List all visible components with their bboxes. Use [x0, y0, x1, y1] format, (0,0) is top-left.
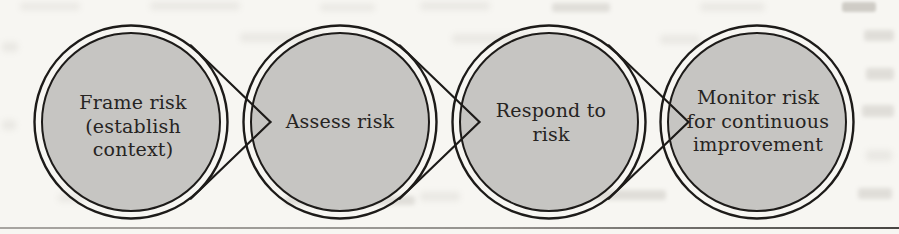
- stage-label-line: context): [43, 138, 223, 162]
- page-text-rule: [0, 227, 899, 229]
- stage-label-line: Respond to: [461, 99, 641, 123]
- stage-label-respond-risk: Respond to risk: [461, 99, 641, 146]
- stage-label-line: Frame risk: [43, 91, 223, 115]
- scanned-book-figure: Frame risk (establish context) Assess ri…: [0, 0, 899, 234]
- stage-label-monitor-risk: Monitor risk for continuous improvement: [668, 86, 848, 157]
- stage-label-frame-risk: Frame risk (establish context): [43, 91, 223, 162]
- stage-label-line: Monitor risk: [668, 86, 848, 110]
- stage-label-line: improvement: [668, 133, 848, 157]
- stage-label-line: (establish: [43, 114, 223, 138]
- stage-label-line: Assess risk: [250, 110, 430, 134]
- stage-label-line: for continuous: [668, 109, 848, 133]
- stage-label-assess-risk: Assess risk: [250, 110, 430, 134]
- stage-label-line: risk: [461, 122, 641, 146]
